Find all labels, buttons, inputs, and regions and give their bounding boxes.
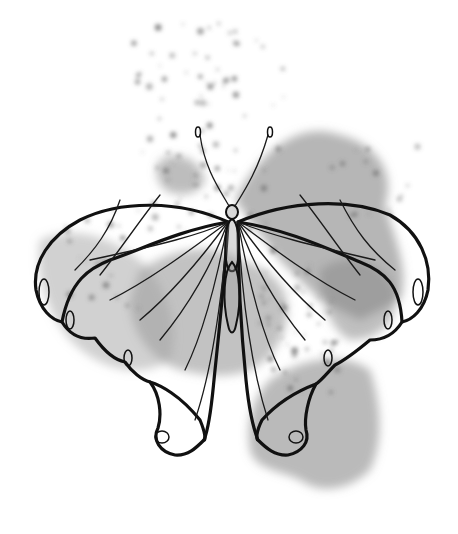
splatter-dot — [148, 226, 153, 231]
splatter-dot — [200, 162, 206, 168]
splatter-dot — [397, 196, 402, 201]
splatter-dot — [205, 195, 209, 199]
splatter-dot — [117, 225, 119, 227]
splatter-dot — [223, 191, 229, 197]
splatter-dot — [363, 159, 368, 164]
splatter-dot — [309, 264, 311, 266]
splatter-dot — [177, 225, 180, 228]
splatter-dot — [261, 45, 264, 48]
splatter-dot — [137, 307, 140, 310]
splatter-dot — [137, 209, 139, 211]
splatter-dot — [287, 386, 293, 392]
splatter-dot — [156, 25, 158, 27]
splatter-dot — [234, 149, 237, 152]
splatter-dot — [184, 229, 186, 231]
splatter-dot — [291, 292, 293, 294]
splatter-dot — [352, 212, 357, 217]
splatter-dot — [232, 76, 238, 82]
splatter-dot — [228, 185, 234, 191]
splatter-dot — [233, 92, 239, 98]
splatter-dot — [294, 285, 300, 291]
splatter-dot — [207, 123, 213, 129]
splatter-dot — [295, 271, 299, 275]
splatter-dot — [200, 100, 206, 106]
splatter-dot — [228, 170, 230, 172]
splatter-dot — [321, 353, 324, 356]
splatter-dot — [281, 67, 285, 71]
splatter-dot — [170, 132, 176, 138]
splatter-dot — [262, 286, 266, 290]
splatter-dot — [89, 295, 94, 300]
splatter-dot — [170, 53, 175, 58]
splatter-dot — [195, 100, 200, 105]
splatter-dot — [367, 212, 369, 214]
splatter-dot — [185, 72, 187, 74]
butterfly-illustration — [0, 0, 458, 534]
splatter-dot — [216, 68, 218, 70]
splatter-dot — [388, 209, 391, 212]
splatter-dot — [166, 179, 169, 182]
splatter-dot — [195, 183, 198, 186]
splatter-dot — [155, 166, 159, 170]
splatter-dot — [340, 161, 345, 166]
splatter-dot — [330, 165, 335, 170]
splatter-dot — [259, 294, 264, 299]
splatter-dot — [373, 170, 379, 176]
wash-lower-right — [249, 359, 380, 489]
splatter-dot — [330, 300, 333, 303]
splatter-dot — [334, 367, 340, 373]
splatter-dot — [262, 301, 265, 304]
splatter-dot — [223, 85, 225, 87]
splatter-dot — [172, 163, 174, 165]
splatter-dot — [159, 65, 161, 67]
splatter-dot — [131, 41, 136, 46]
splatter-dot — [335, 340, 338, 343]
splatter-dot — [200, 95, 202, 97]
splatter-dot — [271, 367, 276, 372]
splatter-dot — [163, 168, 168, 173]
splatter-dot — [233, 29, 237, 33]
splatter-dot — [207, 84, 213, 90]
splatter-dot — [141, 151, 143, 153]
splatter-dot — [406, 184, 409, 187]
splatter-dot — [329, 390, 333, 394]
splatter-dot — [305, 347, 309, 351]
splatter-dot — [328, 310, 332, 314]
splatter-dot — [177, 154, 182, 159]
splatter-dot — [283, 371, 287, 375]
splatter-dot — [272, 104, 274, 106]
splatter-dot — [294, 378, 298, 382]
splatter-dot — [317, 322, 320, 325]
splatter-dot — [103, 282, 109, 288]
splatter-dot — [265, 270, 267, 272]
splatter-dot — [68, 239, 72, 243]
head — [226, 205, 238, 219]
splatter-dot — [146, 83, 153, 90]
splatter-dot — [162, 76, 167, 81]
splatter-dot — [267, 323, 271, 327]
splatter-dot — [158, 117, 161, 120]
splatter-dot — [268, 356, 273, 361]
splatter-dot — [217, 22, 220, 25]
splatter-dot — [198, 74, 202, 78]
splatter-dot — [228, 31, 232, 35]
splatter-dot — [160, 98, 163, 101]
splatter-dot — [265, 222, 268, 225]
splatter-dot — [287, 344, 289, 346]
splatter-dot — [120, 235, 125, 240]
splatter-dot — [415, 144, 421, 150]
splatter-dot — [323, 340, 327, 344]
splatter-dot — [265, 315, 271, 321]
splatter-dot — [277, 326, 282, 331]
splatter-dot — [152, 214, 159, 221]
splatter-dot — [179, 197, 181, 199]
splatter-dot — [206, 81, 208, 83]
splatter-dot — [276, 146, 281, 151]
right-spot-1 — [413, 279, 423, 305]
splatter-dot — [307, 313, 311, 317]
left-antenna-tip — [196, 127, 201, 137]
splatter-dot — [213, 82, 215, 84]
splatter-dot — [355, 149, 357, 151]
splatter-dot — [365, 147, 370, 152]
splatter-dot — [303, 334, 305, 336]
